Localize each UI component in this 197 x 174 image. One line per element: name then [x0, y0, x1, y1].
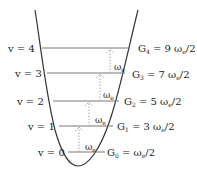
energy-label-3: G3 = 7 ωe/2: [132, 69, 190, 81]
energy-label-1: G1 = 3 ωe/2: [117, 121, 175, 133]
svg-text:ωe: ωe: [114, 62, 125, 73]
v-label-3: v = 3: [14, 68, 42, 79]
v-label-0: v = 0: [37, 147, 65, 158]
energy-label-4: G4 = 9 ωe/2: [138, 43, 196, 55]
v-label-1: v = 1: [27, 121, 55, 132]
energy-label-0: G0 = ωe/2: [107, 147, 155, 159]
energy-label-2: G2 = 5 ωe/2: [124, 96, 182, 108]
svg-text:ωe: ωe: [95, 115, 106, 126]
energy-diagram: ωe ωe ωe ωe v = 4 v = 3 v = 2 v = 1 v = …: [0, 0, 197, 174]
svg-text:ωe: ωe: [85, 142, 96, 153]
v-label-4: v = 4: [7, 43, 35, 54]
v-label-2: v = 2: [16, 96, 44, 107]
spacing-labels: ωe ωe ωe ωe: [85, 62, 125, 153]
svg-text:ωe: ωe: [103, 90, 114, 101]
